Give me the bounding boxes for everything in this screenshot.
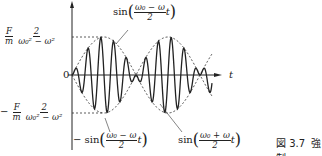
y-axis-arrow-icon	[70, 1, 74, 8]
origin-label: 0	[63, 70, 69, 80]
x-axis-arrow-icon	[214, 73, 222, 77]
upper-envelope-label: sin(ω₀ − ω2t)	[113, 3, 176, 21]
lower-envelope-label: − sin(ω₀ − ω2t)	[73, 131, 148, 149]
beat-plot	[0, 0, 322, 156]
figure-caption: 図 3.7 強制	[276, 135, 322, 156]
lower-amplitude-label: − Fm 2ω₀² − ω²	[0, 103, 63, 121]
upper-amplitude-label: Fm 2ω₀² − ω²	[4, 27, 56, 45]
t-axis-label: t	[229, 70, 233, 80]
carrier-label: sin(ω₀ + ω2t)	[178, 131, 241, 149]
